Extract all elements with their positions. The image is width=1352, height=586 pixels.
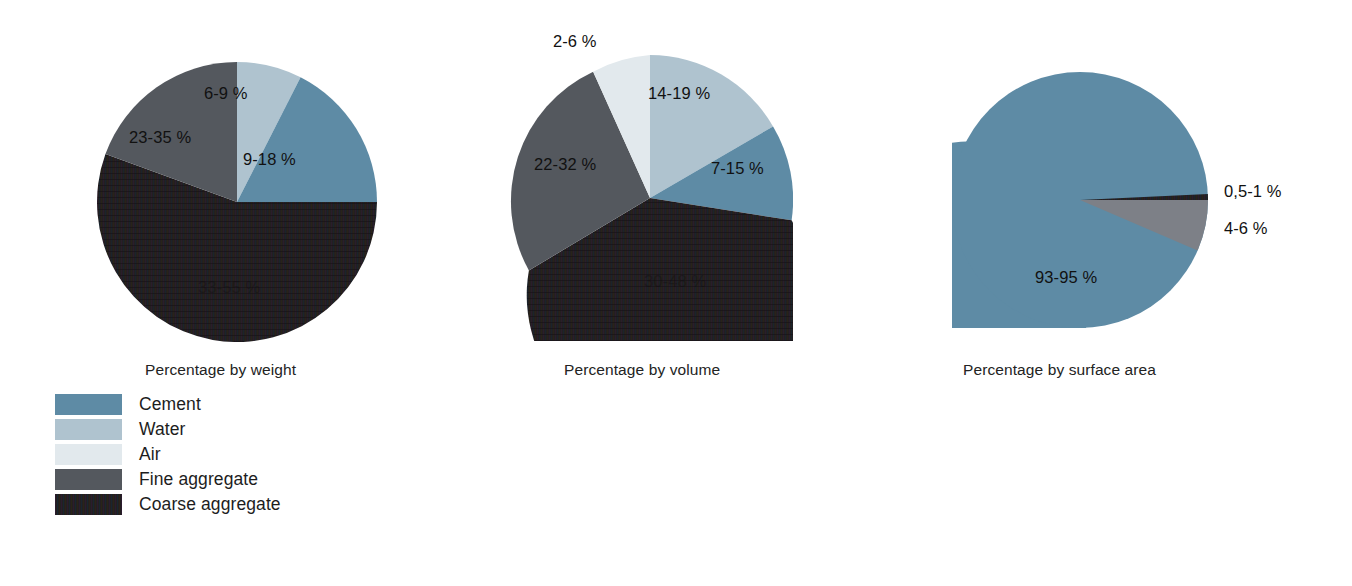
- pie-3-caption: Percentage by surface area: [963, 361, 1156, 379]
- legend-swatch-fine-aggregate: [55, 469, 122, 490]
- pie-2-label-air: 2-6 %: [553, 32, 597, 51]
- pie-2-label-cement: 7-15 %: [711, 159, 764, 178]
- pie-1-label-fine-aggregate: 23-35 %: [129, 128, 191, 147]
- pie-1-label-coarse-aggregate: 33-55 %: [198, 278, 260, 297]
- pie-3-svg: [952, 72, 1208, 328]
- legend-item-fine-aggregate: Fine aggregate: [55, 467, 281, 492]
- pie-3-label-cement: 93-95 %: [1035, 268, 1097, 287]
- legend-swatch-coarse-aggregate: [55, 494, 122, 515]
- pie-2-caption: Percentage by volume: [564, 361, 720, 379]
- legend-item-air: Air: [55, 442, 281, 467]
- pie-1-caption: Percentage by weight: [145, 361, 296, 379]
- concrete-composition-pie-figure: 6-9 % 9-18 % 23-35 % 33-55 % Percentage …: [0, 0, 1352, 586]
- pie-1-label-cement: 9-18 %: [243, 150, 296, 169]
- pie-chart-by-weight: [97, 62, 377, 342]
- legend-label-coarse-aggregate: Coarse aggregate: [139, 494, 281, 515]
- pie-2-label-water: 14-19 %: [648, 84, 710, 103]
- legend-item-cement: Cement: [55, 392, 281, 417]
- legend-swatch-cement: [55, 394, 122, 415]
- pie-3-label-coarse-aggregate: 0,5-1 %: [1224, 182, 1282, 201]
- legend-item-coarse-aggregate: Coarse aggregate: [55, 492, 281, 517]
- pie-1-svg: [97, 62, 377, 342]
- pie-2-label-fine-aggregate: 22-32 %: [534, 155, 596, 174]
- pie-chart-by-surface-area: [952, 72, 1208, 328]
- pie-2-label-coarse-aggregate: 30-48 %: [644, 272, 706, 291]
- legend-label-cement: Cement: [139, 394, 201, 415]
- legend-label-water: Water: [139, 419, 186, 440]
- legend-swatch-air: [55, 444, 122, 465]
- legend-label-air: Air: [139, 444, 161, 465]
- pie-3-label-fine-aggregate: 4-6 %: [1224, 219, 1268, 238]
- legend-label-fine-aggregate: Fine aggregate: [139, 469, 258, 490]
- legend: Cement Water Air Fine aggregate Coarse a…: [55, 392, 281, 517]
- legend-swatch-water: [55, 419, 122, 440]
- pie-1-label-water: 6-9 %: [204, 84, 248, 103]
- legend-item-water: Water: [55, 417, 281, 442]
